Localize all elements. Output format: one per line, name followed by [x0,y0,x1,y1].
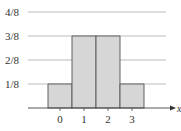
x-tick-labels: 0123 [57,113,135,125]
x-axis-label: x [176,103,181,114]
chart-svg: x 1/82/83/84/8 0123 [0,0,181,131]
x-tick-label: 2 [105,113,111,125]
bar-1 [72,36,96,108]
bar-0 [48,84,72,108]
arrow-right-icon [170,106,176,111]
y-tick-labels: 1/82/83/84/8 [5,6,20,90]
y-tick-label: 3/8 [5,30,20,42]
x-tick-label: 0 [57,113,63,125]
x-tick-label: 3 [129,113,135,125]
bar-2 [96,36,120,108]
y-tick-label: 2/8 [5,54,20,66]
x-tick-label: 1 [81,113,87,125]
bar-3 [120,84,144,108]
y-tick-label: 4/8 [5,6,20,18]
bars [48,36,144,108]
y-tick-label: 1/8 [5,78,20,90]
probability-histogram: x 1/82/83/84/8 0123 [0,0,181,131]
